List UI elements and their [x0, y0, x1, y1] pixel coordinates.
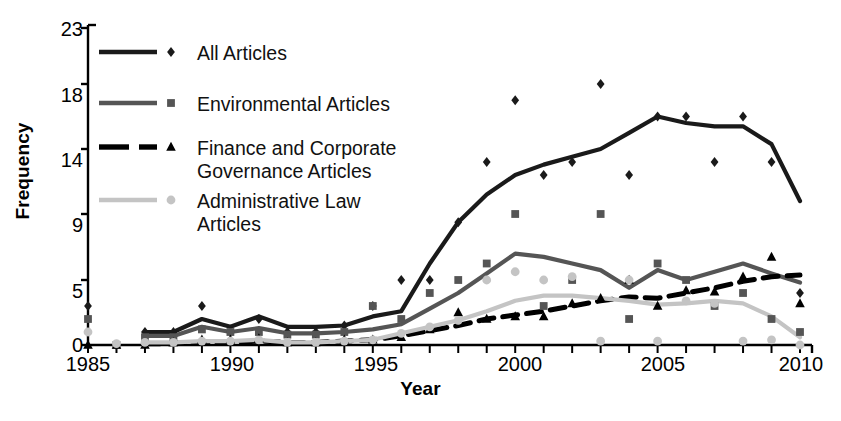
series-lines: [145, 117, 800, 344]
chart-figure: Frequency Year 23 18 14 9 5 0 1985 1990 …: [0, 0, 841, 421]
legend-glyphs: [99, 47, 176, 204]
scatter-markers: [83, 79, 805, 350]
chart-canvas: [0, 0, 841, 421]
